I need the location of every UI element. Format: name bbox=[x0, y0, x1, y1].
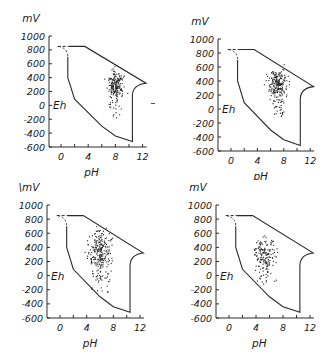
stability-boundary bbox=[236, 216, 314, 313]
svg-text:8: 8 bbox=[280, 322, 286, 333]
svg-text:200: 200 bbox=[196, 90, 214, 101]
svg-text:-200: -200 bbox=[23, 114, 45, 125]
svg-text:600: 600 bbox=[25, 228, 43, 239]
svg-text:-400: -400 bbox=[190, 298, 212, 309]
svg-text:0: 0 bbox=[206, 270, 212, 281]
y-unit-label: mV bbox=[22, 12, 40, 24]
svg-text:-200: -200 bbox=[21, 284, 43, 295]
svg-text:800: 800 bbox=[25, 214, 43, 225]
svg-text:1000: 1000 bbox=[21, 31, 45, 42]
svg-text:-600: -600 bbox=[21, 313, 43, 324]
eh-ph-chart: 10008006004002000-200-400-60004812mVEhpH bbox=[167, 169, 333, 349]
svg-text:200: 200 bbox=[25, 256, 43, 267]
svg-text:400: 400 bbox=[27, 72, 45, 83]
stability-boundary bbox=[67, 216, 144, 313]
svg-text:0: 0 bbox=[226, 322, 232, 333]
svg-text:4: 4 bbox=[253, 322, 259, 333]
svg-text:-600: -600 bbox=[190, 313, 212, 324]
svg-text:12: 12 bbox=[304, 322, 316, 333]
svg-text:200: 200 bbox=[27, 86, 45, 97]
svg-text:-600: -600 bbox=[23, 142, 45, 153]
scatter-points bbox=[254, 235, 278, 284]
eh-ph-chart: 10008006004002000-200-400-60004812mVEhpH bbox=[167, 0, 333, 180]
svg-text:-600: -600 bbox=[192, 146, 214, 157]
svg-text:0: 0 bbox=[37, 270, 43, 281]
scatter-points bbox=[264, 64, 290, 117]
svg-text:12: 12 bbox=[134, 322, 146, 333]
svg-text:600: 600 bbox=[27, 58, 45, 69]
x-axis-label: pH bbox=[82, 337, 98, 349]
y-unit-label: \mV bbox=[19, 181, 41, 193]
svg-text:800: 800 bbox=[196, 48, 214, 59]
chart-panel-top-right: 10008006004002000-200-400-60004812mVEhpH bbox=[167, 0, 333, 180]
svg-text:12: 12 bbox=[137, 151, 149, 162]
svg-text:600: 600 bbox=[196, 62, 214, 73]
svg-text:800: 800 bbox=[27, 44, 45, 55]
svg-text:-200: -200 bbox=[190, 284, 212, 295]
svg-text:8: 8 bbox=[281, 155, 287, 166]
scatter-points bbox=[85, 226, 114, 293]
svg-text:0: 0 bbox=[57, 322, 63, 333]
svg-text:400: 400 bbox=[25, 242, 43, 253]
svg-text:400: 400 bbox=[196, 76, 214, 87]
svg-text:0: 0 bbox=[228, 155, 234, 166]
eh-ph-chart: 10008006004002000-200-400-60004812\mVEhp… bbox=[0, 169, 166, 349]
svg-text:200: 200 bbox=[194, 256, 212, 267]
eh-label: Eh bbox=[222, 103, 235, 115]
eh-label: Eh bbox=[220, 270, 233, 282]
svg-text:0: 0 bbox=[208, 104, 214, 115]
eh-label: Eh bbox=[53, 99, 66, 111]
y-unit-label: mV bbox=[189, 181, 207, 193]
svg-text:600: 600 bbox=[194, 228, 212, 239]
svg-text:-400: -400 bbox=[192, 132, 214, 143]
y-unit-label: mV bbox=[191, 15, 209, 27]
svg-text:-400: -400 bbox=[23, 128, 45, 139]
svg-text:-400: -400 bbox=[21, 298, 43, 309]
svg-text:1000: 1000 bbox=[19, 200, 43, 211]
chart-panel-bottom-left: 10008006004002000-200-400-60004812\mVEhp… bbox=[0, 169, 166, 349]
svg-text:0: 0 bbox=[39, 100, 45, 111]
svg-text:1000: 1000 bbox=[190, 34, 214, 45]
stray-mark bbox=[151, 103, 155, 104]
svg-text:8: 8 bbox=[110, 322, 116, 333]
svg-text:8: 8 bbox=[112, 151, 118, 162]
eh-ph-chart: 10008006004002000-200-400-60004812mVEhpH bbox=[0, 0, 166, 180]
chart-panel-top-left: 10008006004002000-200-400-60004812mVEhpH bbox=[0, 0, 166, 180]
svg-text:1000: 1000 bbox=[188, 200, 212, 211]
svg-text:-200: -200 bbox=[192, 118, 214, 129]
eh-label: Eh bbox=[51, 270, 64, 282]
chart-panel-bottom-right: 10008006004002000-200-400-60004812mVEhpH bbox=[167, 169, 333, 349]
stability-boundary bbox=[68, 46, 146, 141]
svg-text:4: 4 bbox=[85, 151, 91, 162]
svg-text:0: 0 bbox=[58, 151, 64, 162]
svg-text:12: 12 bbox=[304, 155, 316, 166]
svg-text:400: 400 bbox=[194, 242, 212, 253]
x-axis-label: pH bbox=[251, 337, 267, 349]
svg-text:800: 800 bbox=[194, 214, 212, 225]
svg-text:4: 4 bbox=[84, 322, 90, 333]
svg-text:4: 4 bbox=[254, 155, 260, 166]
scatter-points bbox=[104, 66, 128, 118]
stability-boundary bbox=[238, 50, 314, 146]
